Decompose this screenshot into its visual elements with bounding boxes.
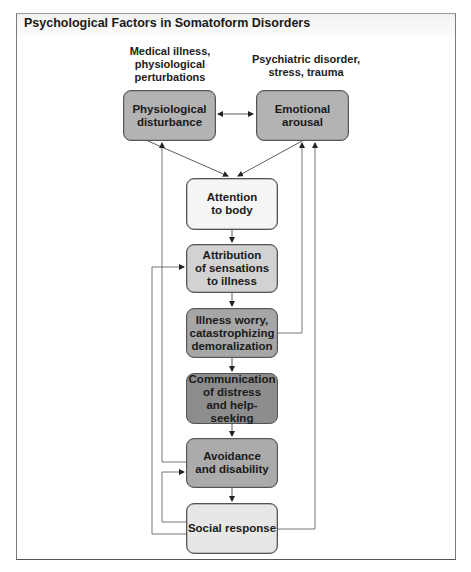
node-attribution: Attribution of sensations to illness [186,244,278,293]
node-avoidance: Avoidance and disability [186,438,278,488]
edge-avoidance-physio [162,143,186,462]
node-label: Avoidance and disability [195,450,269,476]
node-communication: Communication of distress and help-seeki… [186,373,278,424]
node-physiological-disturbance: Physiological disturbance [123,90,216,141]
node-illness-worry: Illness worry, catastrophizing demoraliz… [186,308,278,358]
node-label: Physiological disturbance [132,103,206,129]
node-label: Illness worry, catastrophizing demoraliz… [190,314,275,353]
node-social-response: Social response [186,503,278,554]
node-label: Social response [188,522,276,535]
edge-social-avoidance [162,472,186,522]
edge-physio-attention [148,141,228,176]
node-attention-to-body: Attention to body [186,178,278,230]
node-label: Attribution of sensations to illness [195,249,269,288]
edge-emotional-attention [238,141,302,176]
edge-social-emotional [278,143,315,529]
node-label: Emotional arousal [275,103,331,129]
node-label: Attention to body [207,191,257,217]
edge-worry-emotional [278,143,302,333]
edge-social-attribution [152,267,186,534]
node-emotional-arousal: Emotional arousal [256,90,349,141]
node-label: Communication of distress and help-seeki… [187,373,277,425]
